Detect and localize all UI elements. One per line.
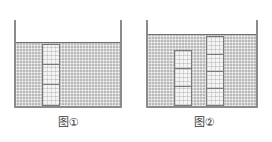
figure-2-vessel <box>146 20 258 108</box>
block <box>206 54 224 72</box>
figure-2-right-wall <box>256 20 258 108</box>
block <box>42 64 60 85</box>
block <box>206 36 224 55</box>
figure-2: 图② <box>136 0 272 142</box>
block <box>174 68 192 87</box>
block <box>206 88 224 106</box>
figure-2-left-wall <box>146 20 148 108</box>
figure-2-water <box>148 34 256 106</box>
block <box>42 84 60 106</box>
figure-1-water-surface-line <box>16 42 120 43</box>
figure-2-caption: 图② <box>136 116 272 130</box>
figure-1-water <box>16 42 120 106</box>
figure-1: 图① <box>0 0 136 142</box>
figure-1-left-wall <box>14 20 16 108</box>
block <box>206 71 224 89</box>
figure-2-block-stack-left <box>174 50 192 106</box>
figure-2-water-surface-line <box>148 34 256 35</box>
block <box>174 86 192 106</box>
figure-1-right-wall <box>120 20 122 108</box>
figure-1-block-stack-single <box>42 44 60 106</box>
figure-2-block-stack-right <box>206 36 224 106</box>
figure-1-base <box>14 106 122 108</box>
figure-1-vessel <box>14 20 122 108</box>
block <box>42 44 60 65</box>
figure-2-base <box>146 106 258 108</box>
diagram-canvas: 图① 图② <box>0 0 272 142</box>
figure-1-caption: 图① <box>0 116 136 130</box>
block <box>174 50 192 69</box>
